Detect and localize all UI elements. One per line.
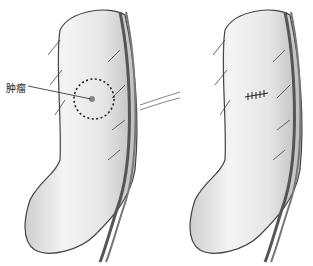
colon-illustration <box>0 0 313 266</box>
panel-after <box>190 10 302 262</box>
panel-before <box>25 10 180 262</box>
tumor-label: 肿瘤 <box>6 80 26 95</box>
